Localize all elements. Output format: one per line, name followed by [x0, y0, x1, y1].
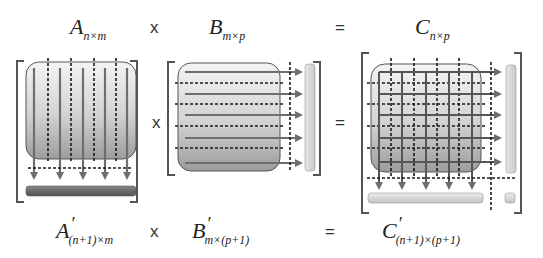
left-bracket	[168, 62, 175, 175]
matrix-a-body	[26, 62, 136, 159]
column-checksum-row	[26, 186, 136, 196]
row-checksum-column	[506, 65, 516, 173]
left-bracket	[362, 53, 369, 213]
matrix-c-prime	[362, 53, 521, 213]
column-checksum-row	[368, 193, 483, 203]
full-checksum-cell	[505, 193, 515, 203]
matrix-b-prime	[168, 62, 320, 175]
matrix-a-prime	[17, 58, 137, 202]
left-bracket	[17, 61, 24, 202]
diagram-canvas	[0, 0, 543, 258]
row-checksum-column	[305, 64, 315, 171]
matrix-b-body	[178, 63, 280, 171]
